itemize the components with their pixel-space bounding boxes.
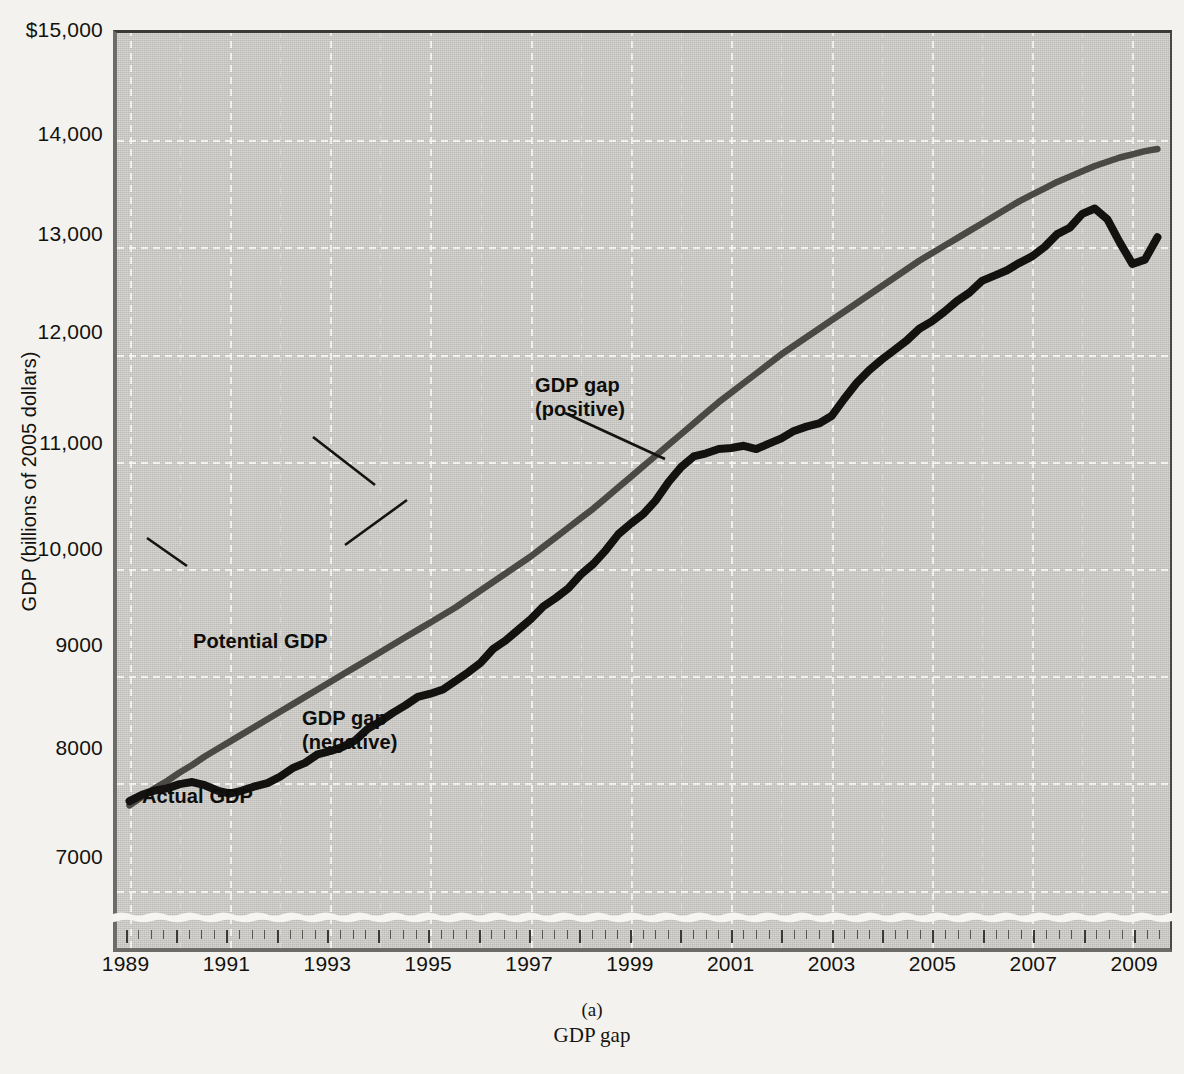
x-axis-tick	[1109, 930, 1110, 939]
x-tick-label: 1999	[606, 952, 654, 976]
x-axis-tick	[579, 930, 581, 943]
x-axis-tick	[1071, 930, 1072, 939]
x-axis-tick	[718, 930, 719, 939]
annotation-actual-gdp-label: Actual GDP	[142, 785, 253, 807]
x-axis-tick	[466, 930, 467, 939]
x-axis-tick	[706, 930, 707, 939]
x-axis-tick	[1084, 930, 1086, 943]
x-axis-tick	[857, 930, 858, 939]
y-axis-tick-labels: $15,000 14,000 13,000 12,000 11,000 10,0…	[0, 0, 103, 1000]
x-axis-tick	[567, 930, 568, 939]
x-axis-tick	[239, 930, 240, 939]
x-axis-ticks	[113, 930, 1172, 944]
y-axis-break-squiggle	[113, 906, 1172, 924]
x-axis-tick	[769, 930, 770, 939]
x-axis-tick	[1008, 930, 1009, 939]
caption-title: GDP gap	[0, 1022, 1184, 1049]
annotation-gap-negative-line2: (negative)	[302, 731, 397, 755]
x-axis-tick	[794, 930, 795, 939]
plot-area: Potential GDP Actual GDP GDP gap (negati…	[113, 30, 1172, 952]
x-axis-tick	[605, 930, 606, 939]
x-axis-tick	[176, 930, 178, 943]
y-tick-label: 9000	[55, 633, 103, 657]
x-axis-tick	[428, 930, 430, 943]
x-tick-label: 1989	[102, 952, 150, 976]
x-tick-label: 2007	[1010, 952, 1058, 976]
chart-curves	[117, 33, 1170, 948]
x-tick-label: 2003	[808, 952, 856, 976]
annotation-gap-negative-line1: GDP gap	[302, 707, 397, 731]
x-axis-tick	[958, 930, 959, 939]
annotation-gap-positive: GDP gap (positive)	[535, 374, 625, 421]
x-axis-tick	[290, 930, 291, 939]
x-axis-tick	[138, 930, 139, 939]
annotation-potential-gdp: Potential GDP	[193, 630, 328, 654]
x-axis-tick	[1159, 930, 1160, 939]
x-axis-tick	[1122, 930, 1123, 939]
x-axis-tick	[680, 930, 682, 943]
annotation-actual-gdp: Actual GDP	[142, 785, 253, 809]
leader-line-potential	[313, 437, 375, 485]
x-axis-tick	[277, 930, 279, 943]
x-axis-tick	[693, 930, 694, 939]
x-axis-tick	[1059, 930, 1060, 939]
x-axis-tick	[832, 930, 834, 943]
x-axis-tick	[365, 930, 366, 939]
potential-gdp-line	[130, 149, 1158, 805]
x-axis-tick	[163, 930, 164, 939]
x-axis-tick	[353, 930, 354, 939]
x-axis-tick	[945, 930, 946, 939]
x-tick-label: 1995	[404, 952, 452, 976]
x-tick-label: 2005	[909, 952, 957, 976]
x-tick-label: 1993	[304, 952, 352, 976]
x-axis-tick	[340, 930, 341, 939]
x-axis-tick	[806, 930, 807, 939]
leader-line-actual	[147, 538, 187, 566]
y-tick-label: 12,000	[38, 320, 103, 344]
y-tick-label: $15,000	[26, 18, 103, 42]
x-axis-tick	[781, 930, 783, 943]
x-axis-tick	[479, 930, 481, 943]
x-axis-tick	[542, 930, 543, 939]
x-axis-tick	[189, 930, 190, 939]
x-axis-tick	[844, 930, 845, 939]
x-axis-tick	[491, 930, 492, 939]
x-axis-tick	[390, 930, 391, 939]
x-axis-tick	[504, 930, 505, 939]
x-tick-label: 1997	[505, 952, 553, 976]
x-axis-tick	[264, 930, 265, 939]
x-axis-tick	[1134, 930, 1136, 943]
x-axis-tick	[907, 930, 908, 939]
x-axis-tick	[378, 930, 380, 943]
x-axis-tick	[895, 930, 896, 939]
x-tick-label: 1991	[203, 952, 251, 976]
y-tick-label: 7000	[55, 845, 103, 869]
x-axis-tick	[630, 930, 632, 943]
caption-part-label: (a)	[0, 998, 1184, 1022]
x-axis-tick	[1021, 930, 1022, 939]
x-axis-tick	[617, 930, 618, 939]
x-axis-tick	[1096, 930, 1097, 939]
annotation-gap-positive-line2: (positive)	[535, 398, 625, 422]
x-axis-tick	[315, 930, 316, 939]
x-axis-tick	[453, 930, 454, 939]
x-axis-tick	[151, 930, 152, 939]
y-tick-label: 10,000	[38, 537, 103, 561]
x-axis-tick	[252, 930, 253, 939]
x-axis-tick-labels: 1989199119931995199719992001200320052007…	[113, 952, 1172, 986]
x-axis-tick	[554, 930, 555, 939]
x-axis-tick	[516, 930, 517, 939]
leader-line-gap-negative	[345, 500, 407, 545]
gdp-gap-figure: $15,000 14,000 13,000 12,000 11,000 10,0…	[0, 0, 1184, 1074]
x-axis-tick	[1046, 930, 1047, 939]
y-tick-label: 8000	[55, 736, 103, 760]
x-axis-tick	[970, 930, 971, 939]
x-axis-tick	[529, 930, 531, 943]
x-axis-tick	[416, 930, 417, 939]
y-tick-label: 14,000	[38, 122, 103, 146]
x-axis-tick	[743, 930, 744, 939]
x-axis-tick	[126, 930, 128, 943]
x-axis-tick	[327, 930, 329, 943]
x-axis-tick	[731, 930, 733, 943]
x-axis-tick	[983, 930, 985, 943]
